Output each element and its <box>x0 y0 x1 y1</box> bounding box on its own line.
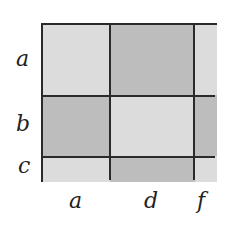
col-label-a: a <box>69 190 82 212</box>
row-label-a: a <box>16 48 29 70</box>
col-label-d: d <box>144 190 158 212</box>
cell-a-a <box>43 25 110 95</box>
cell-b-d <box>110 95 195 156</box>
cell-b-f <box>195 95 217 156</box>
cell-c-a <box>43 156 110 182</box>
cell-a-d <box>110 25 195 95</box>
row-label-b: b <box>16 113 30 135</box>
divider-horizontal-1 <box>43 95 215 97</box>
cell-c-d <box>110 156 195 182</box>
cell-a-f <box>195 25 217 95</box>
col-label-f: f <box>197 190 205 212</box>
cell-c-f <box>195 156 217 182</box>
row-label-c: c <box>18 155 30 177</box>
area-model-grid <box>41 23 217 182</box>
divider-horizontal-2 <box>43 156 215 158</box>
cell-b-a <box>43 95 110 156</box>
